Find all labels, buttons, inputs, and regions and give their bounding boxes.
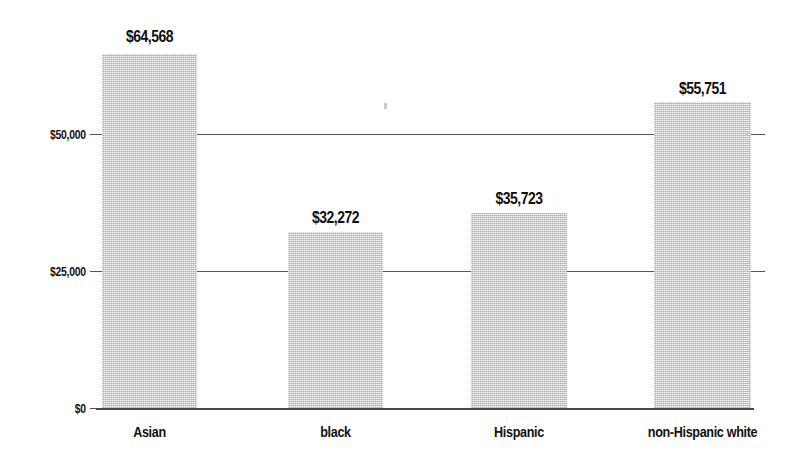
y-tick-mark-right-50000 bbox=[751, 134, 765, 135]
x-axis-label-asian: Asian bbox=[101, 424, 198, 439]
scan-artifact-speck bbox=[384, 103, 387, 109]
y-tick-mark-25000 bbox=[90, 271, 102, 272]
y-axis-label-50000: $50,000 bbox=[50, 128, 86, 141]
x-axis-line bbox=[96, 408, 754, 410]
bar-hispanic[interactable] bbox=[471, 213, 567, 409]
x-axis-label-black: black bbox=[287, 424, 384, 439]
x-axis-label-hispanic: Hispanic bbox=[470, 424, 567, 439]
x-axis-label-non-hispanic-white: non-Hispanic white bbox=[642, 424, 764, 439]
bar-chart: $50,000 $25,000 $0 $64,568 $32,272 $35,7… bbox=[0, 0, 798, 466]
y-axis-label-25000: $25,000 bbox=[50, 265, 86, 278]
bar-value-label-black: $32,272 bbox=[297, 209, 375, 226]
y-tick-mark-right-25000 bbox=[751, 271, 765, 272]
y-axis-label-0: $0 bbox=[75, 402, 86, 415]
bar-black[interactable] bbox=[288, 232, 383, 409]
bar-value-label-hispanic: $35,723 bbox=[480, 190, 559, 207]
bar-value-label-asian: $64,568 bbox=[111, 28, 189, 45]
bar-value-label-non-hispanic-white: $55,751 bbox=[663, 80, 743, 97]
bar-non-hispanic-white[interactable] bbox=[654, 102, 751, 409]
y-tick-mark-50000 bbox=[90, 134, 102, 135]
bar-asian[interactable] bbox=[102, 54, 197, 409]
